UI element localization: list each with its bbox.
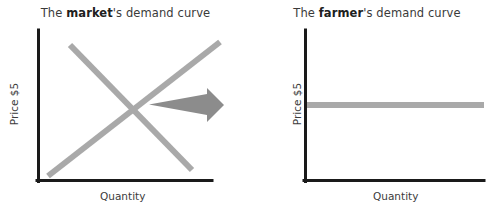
farmer-x-axis-label: Quantity bbox=[373, 190, 418, 202]
farmer-y-axis-label: Price $5 bbox=[291, 74, 303, 134]
market-y-axis-label: Price $5 bbox=[8, 74, 20, 134]
farmer-plot-area bbox=[251, 0, 503, 214]
panel-market: The market's demand curve Price $5 Quant… bbox=[0, 0, 251, 214]
market-plot-area bbox=[0, 0, 251, 214]
panel-farmer: The farmer's demand curve Price $5 Quant… bbox=[251, 0, 503, 214]
market-x-axis-label: Quantity bbox=[100, 190, 145, 202]
rightward-arrow-icon bbox=[149, 88, 224, 122]
two-panel-demand-curve-figure: The market's demand curve Price $5 Quant… bbox=[0, 0, 503, 214]
